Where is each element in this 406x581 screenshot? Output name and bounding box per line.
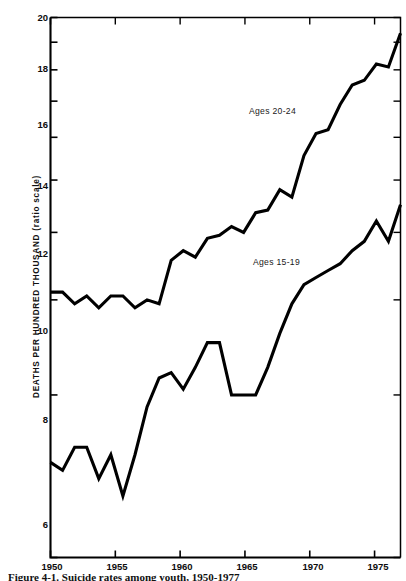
series-line-ages-15-19 xyxy=(51,205,401,496)
data-lines xyxy=(51,33,401,496)
figure-container: DEATHS PER HUNDRED THOUSAND (ratio scale… xyxy=(0,0,406,581)
figure-caption: Figure 4-1. Suicide rates among youth, 1… xyxy=(8,571,406,581)
axes xyxy=(51,18,401,558)
plot-area xyxy=(0,0,406,581)
series-line-ages-20-24 xyxy=(51,33,401,308)
